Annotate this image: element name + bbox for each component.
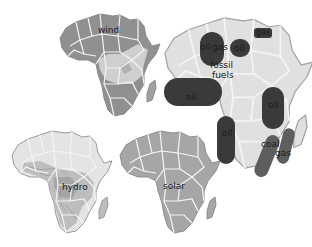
fossil-fuels-label-line1: fossil — [210, 60, 233, 70]
solar-label: solar — [163, 181, 185, 191]
deposit-label-oil: oil — [268, 100, 279, 110]
deposit-label-oil: oil — [222, 128, 233, 138]
deposit-label-gas: gas — [256, 28, 270, 38]
deposit-label-gas: gas — [212, 42, 228, 52]
hydro-label: hydro — [62, 182, 88, 192]
deposit-label-oil: oil — [234, 43, 245, 53]
africa-hydro-map — [10, 127, 110, 237]
deposit-label-oil: oil — [200, 42, 211, 52]
deposit-label-gas: gas — [275, 148, 291, 158]
deposit-label-oil: oil — [186, 92, 197, 102]
hydro-map-panel: hydro — [10, 127, 110, 237]
deposit-oil-central-africa — [217, 116, 235, 164]
wind-label: wind — [98, 25, 119, 35]
fossil-fuels-label-line2: fuels — [212, 70, 234, 80]
solar-map-panel: solar — [118, 127, 218, 237]
wind-map-panel: wind — [58, 10, 158, 120]
